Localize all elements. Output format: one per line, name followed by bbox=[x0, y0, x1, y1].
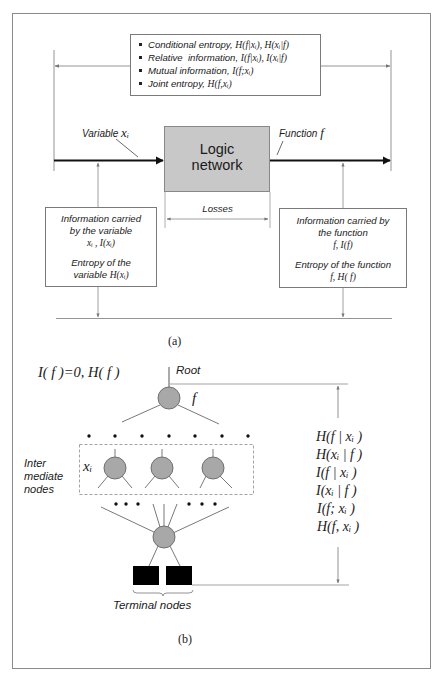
intermediate-symbol: xᵢ bbox=[83, 458, 92, 475]
metric-conditional-entropy: Conditional entropy, H(f|xᵢ), H(xᵢ|f) bbox=[139, 38, 320, 51]
metric-relative-information: Relative information, I(f|xᵢ), I(xᵢ|f) bbox=[139, 51, 320, 64]
bullet-icon bbox=[139, 56, 142, 59]
intermediate-node-3 bbox=[202, 457, 224, 479]
metrics-box: Conditional entropy, H(f|xᵢ), H(xᵢ|f) Re… bbox=[130, 34, 321, 96]
terminal-node-2 bbox=[166, 566, 192, 585]
ellipsis-dots-row-1 bbox=[87, 434, 249, 437]
intermediate-node-2 bbox=[151, 457, 173, 479]
outer-frame bbox=[13, 14, 431, 669]
terminal-brace bbox=[133, 590, 193, 596]
logic-network-label: Logic network bbox=[164, 141, 270, 173]
variable-label: Variable xᵢ bbox=[82, 125, 129, 141]
figure: Conditional entropy, H(f|xᵢ), H(xᵢ|f) Re… bbox=[0, 0, 445, 679]
root-symbol: f bbox=[192, 390, 196, 407]
caption-b: (b) bbox=[178, 632, 192, 647]
function-info-box: Information carried by the function f, I… bbox=[279, 208, 407, 288]
losses-label: Losses bbox=[165, 203, 270, 214]
root-measure: I( f )=0, H( f ) bbox=[38, 364, 119, 381]
ellipsis-dots-row-2 bbox=[114, 502, 216, 505]
lower-node bbox=[153, 526, 175, 548]
intermediate-nodes-label: Inter mediate nodes bbox=[24, 457, 63, 496]
bullet-icon bbox=[139, 43, 142, 46]
bullet-icon bbox=[139, 69, 142, 72]
variable-info-box: Information carried by the variable xᵢ ,… bbox=[45, 207, 157, 287]
information-measures: H(f | xᵢ ) H(xᵢ | f ) I(f | xᵢ ) I(xᵢ | … bbox=[316, 428, 362, 536]
metric-mutual-information: Mutual information, I(f;xᵢ) bbox=[139, 64, 320, 77]
metric-joint-entropy: Joint entropy, H(f,xᵢ) bbox=[139, 77, 320, 90]
metrics-list: Conditional entropy, H(f|xᵢ), H(xᵢ|f) Re… bbox=[131, 35, 320, 90]
root-node bbox=[158, 387, 180, 409]
bullet-icon bbox=[139, 82, 142, 85]
diagram-lines bbox=[0, 0, 445, 679]
terminal-nodes-label: Terminal nodes bbox=[113, 599, 191, 611]
root-label: Root bbox=[176, 364, 200, 376]
terminal-node-1 bbox=[133, 566, 159, 585]
function-label: Function f bbox=[279, 125, 324, 141]
intermediate-node-1 bbox=[104, 457, 126, 479]
caption-a: (a) bbox=[168, 334, 181, 349]
